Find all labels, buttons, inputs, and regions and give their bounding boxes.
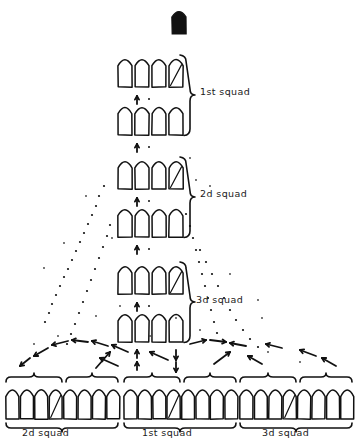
column-soldier-s1-r2-f4 <box>169 108 183 136</box>
line-top-brace-1 <box>6 373 62 382</box>
ink-speck-9 <box>199 329 201 331</box>
column-soldier-s2-r1-f2 <box>135 162 149 190</box>
ink-speck-18 <box>261 317 263 319</box>
line-soldier-g3-3 <box>269 390 282 419</box>
line-soldier-g1-1 <box>6 390 19 419</box>
dotted-trace-right-outer-2 <box>211 273 213 275</box>
ink-speck-6 <box>195 179 197 181</box>
line-top-brace-4 <box>184 373 236 382</box>
line-soldier-g1-7 <box>92 390 105 419</box>
line-squad-label-1st: 1st squad <box>142 427 192 438</box>
line-top-brace-2 <box>66 373 118 382</box>
dotted-trace-left-outer-11 <box>59 285 61 287</box>
column-soldier-s3-r1-f4-leader-slash <box>171 272 182 293</box>
dotted-trace-left-inner-6 <box>86 290 88 292</box>
dotted-trace-right-inner-6 <box>204 285 206 287</box>
line-soldier-g2-1 <box>124 390 137 419</box>
ink-speck-12 <box>57 335 59 337</box>
deploy-arrow-left-7-head-b <box>20 365 24 366</box>
dotted-trace-left-outer-12 <box>55 294 57 296</box>
dotted-trace-right-inner-8 <box>210 309 212 311</box>
dotted-trace-left-outer-13 <box>51 303 53 305</box>
dotted-trace-right-outer-3 <box>217 285 219 287</box>
column-soldier-s2-r2-f4 <box>169 210 183 238</box>
line-soldier-g3-4 <box>283 390 296 419</box>
line-squad-label-3d: 3d squad <box>262 427 309 438</box>
line-squad-label-2d: 2d squad <box>22 427 69 438</box>
column-soldier-s1-r1-f4-leader-slash <box>171 65 182 86</box>
dotted-trace-left-outer-4 <box>87 223 89 225</box>
line-soldier-g3-8 <box>341 390 354 419</box>
dotted-trace-right-inner-4 <box>198 261 200 263</box>
column-mark-dot-s1-r1 <box>148 98 150 100</box>
ink-speck-16 <box>209 185 211 187</box>
dotted-trace-left-outer-0 <box>103 185 105 187</box>
line-top-brace-3 <box>124 373 180 382</box>
column-soldier-s2-r2-f1 <box>118 210 132 237</box>
line-soldier-g1-3 <box>35 390 48 419</box>
line-soldier-g2-4 <box>167 390 180 419</box>
dotted-trace-left-inner-4 <box>94 268 96 270</box>
line-soldier-g1-4 <box>49 390 62 419</box>
dotted-trace-left-outer-7 <box>75 250 77 252</box>
dotted-trace-left-outer-10 <box>63 276 65 278</box>
line-soldier-g1-6 <box>78 390 91 419</box>
dotted-trace-right-inner-2 <box>192 237 194 239</box>
line-soldier-g2-7 <box>210 390 223 419</box>
column-soldier-s1-r1-f2 <box>135 60 149 87</box>
line-soldier-g1-4-leader-slash <box>51 396 61 418</box>
ink-speck-17 <box>185 267 187 269</box>
dotted-trace-right-inner-10 <box>216 332 218 334</box>
dotted-trace-left-inner-5 <box>90 279 92 281</box>
dotted-trace-left-inner-3 <box>98 257 100 259</box>
column-soldier-s2-r1-f4-leader-slash <box>171 167 182 188</box>
column-soldier-s1-r2-f2 <box>135 108 149 136</box>
column-soldier-s2-r2-f3 <box>152 210 166 238</box>
column-soldier-s1-r2-f1 <box>118 108 132 136</box>
line-soldier-g1-8 <box>107 390 120 419</box>
ink-speck-3 <box>43 267 45 269</box>
dotted-trace-right-outer-9 <box>257 346 259 348</box>
line-soldier-g2-3 <box>153 390 166 419</box>
line-soldier-g3-1 <box>240 390 253 419</box>
drill-formation-diagram: 1st squad 2d squad 3d squad 2d squad 1st… <box>0 0 356 443</box>
column-soldier-s3-r1-f2 <box>135 267 149 294</box>
dotted-trace-right-outer-1 <box>205 261 207 263</box>
column-mark-dot-s2-r1 <box>148 200 150 202</box>
line-soldier-g3-2 <box>254 390 267 419</box>
ink-speck-0 <box>85 195 87 197</box>
ink-speck-8 <box>229 273 231 275</box>
column-soldier-s3-r2-f1 <box>118 315 132 342</box>
dotted-trace-left-outer-1 <box>98 195 100 197</box>
dotted-trace-right-outer-6 <box>235 319 237 321</box>
dotted-trace-right-inner-5 <box>201 273 203 275</box>
dotted-trace-right-inner-0 <box>185 213 187 215</box>
column-soldier-s3-r2-f2 <box>135 315 149 342</box>
dotted-trace-left-outer-15 <box>44 321 46 323</box>
dotted-trace-right-inner-3 <box>195 249 197 251</box>
dotted-trace-left-inner-11 <box>66 343 68 345</box>
dotted-trace-right-inner-1 <box>189 225 191 227</box>
dotted-trace-left-outer-8 <box>71 259 73 261</box>
dotted-trace-left-outer-9 <box>67 268 69 270</box>
dotted-trace-left-inner-8 <box>78 312 80 314</box>
column-soldier-s3-r2-f3 <box>152 315 166 343</box>
line-soldier-g1-5 <box>64 390 77 419</box>
dotted-trace-left-inner-0 <box>109 224 111 226</box>
line-soldier-g2-5 <box>182 390 195 419</box>
ink-speck-13 <box>33 343 35 345</box>
deploy-arrow-left-4-head-b <box>52 345 56 346</box>
column-mark-dot-s1-r2 <box>148 146 150 148</box>
ink-speck-19 <box>95 315 97 317</box>
ink-speck-1 <box>111 237 113 239</box>
deploy-arrow-right-1-head-b <box>202 339 206 340</box>
dotted-trace-right-outer-5 <box>229 309 231 311</box>
line-soldier-g2-4-leader-slash <box>169 396 179 418</box>
column-squad-label-2: 2d squad <box>200 188 247 199</box>
ink-speck-14 <box>299 361 301 363</box>
dotted-trace-right-outer-0 <box>199 249 201 251</box>
column-soldier-s2-r1-f3 <box>152 162 166 189</box>
dotted-trace-left-outer-3 <box>91 214 93 216</box>
line-soldier-g1-2 <box>20 390 33 419</box>
ink-speck-15 <box>267 351 269 353</box>
